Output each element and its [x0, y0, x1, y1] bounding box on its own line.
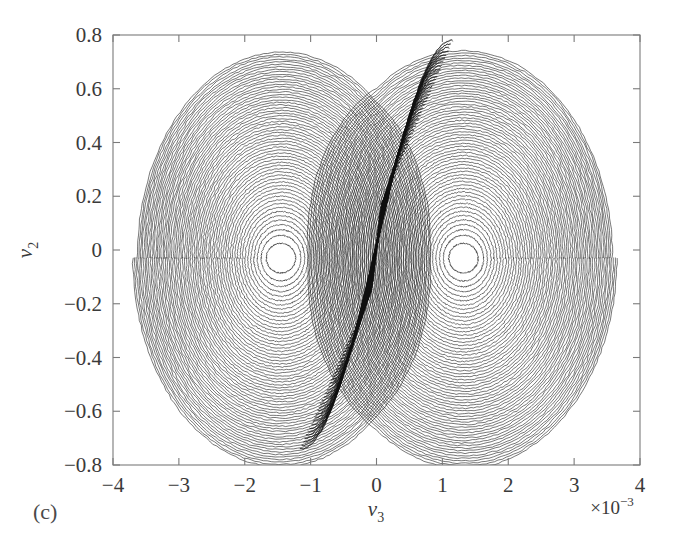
trajectory-orbit — [330, 78, 597, 441]
y-axis-title: ν2 — [13, 242, 41, 258]
y-tick-label: 0.2 — [76, 184, 102, 208]
x-tick-label: 3 — [569, 473, 580, 497]
trajectory-orbit — [194, 138, 367, 379]
trajectory-orbit — [227, 185, 335, 332]
y-tick-label: 0.8 — [76, 23, 102, 47]
x-tick-label: 0 — [371, 473, 382, 497]
trajectory-orbit — [379, 143, 549, 374]
trajectory-orbit — [401, 174, 527, 342]
trajectory-orbit — [225, 181, 338, 335]
panel-label: (c) — [33, 499, 57, 524]
trajectory-orbit — [216, 168, 347, 348]
y-tick-label: 0 — [92, 238, 103, 262]
trajectory-curves — [132, 40, 617, 469]
trajectory-orbit — [138, 59, 425, 460]
trajectory-orbit — [418, 199, 509, 317]
trajectory-orbit — [250, 220, 311, 297]
trajectory-orbit — [436, 224, 492, 292]
trajectory-orbit — [432, 219, 494, 296]
trajectory-crossing — [300, 40, 451, 449]
trajectory-orbit — [443, 235, 484, 281]
y-tick-label: 0.4 — [76, 131, 103, 155]
svg-text:ν3: ν3 — [368, 497, 384, 525]
trajectory-orbit — [244, 211, 316, 305]
x-tick-label: −4 — [102, 473, 125, 497]
trajectory-orbit — [398, 171, 529, 346]
y-tick-label: −0.2 — [64, 292, 102, 316]
trajectory-orbit — [332, 81, 595, 438]
x-tick-label: −1 — [299, 473, 321, 497]
y-tick-label: 0.6 — [76, 77, 102, 101]
x-tick-label: 4 — [635, 473, 646, 497]
x-tick-label: −3 — [168, 473, 190, 497]
svg-text:ν2: ν2 — [13, 242, 41, 258]
trajectory-orbit — [190, 132, 371, 385]
svg-text:×10−3: ×10−3 — [590, 494, 634, 518]
y-tick-label: −0.8 — [64, 453, 102, 477]
x-tick-label: −2 — [234, 473, 256, 497]
x-tick-label: 1 — [437, 473, 448, 497]
trajectory-orbit — [239, 203, 323, 313]
trajectory-orbit — [360, 117, 568, 400]
y-tick-label: −0.6 — [64, 399, 102, 423]
figure-panel-c: −4−3−2−1012340.80.60.40.20−0.2−0.4−0.6−0… — [0, 0, 678, 554]
y-tick-label: −0.4 — [64, 346, 103, 370]
trajectory-orbit — [377, 140, 552, 377]
trajectory-orbit — [257, 229, 305, 286]
x-axis-title: ν3 — [368, 497, 384, 525]
attractor-plot: −4−3−2−1012340.80.60.40.20−0.2−0.4−0.6−0… — [0, 0, 678, 554]
x-tick-label: 2 — [503, 473, 514, 497]
trajectory-orbit — [165, 97, 396, 421]
trajectory-orbit — [266, 243, 296, 274]
trajectory-orbit — [439, 229, 487, 287]
x-axis-multiplier: ×10−3 — [590, 494, 634, 518]
trajectory-orbit — [448, 243, 478, 273]
